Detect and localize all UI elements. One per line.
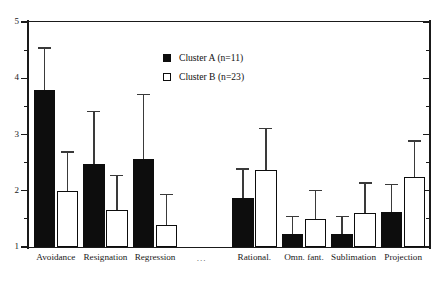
bar-cluster-b-resignation	[106, 210, 128, 247]
bar-cluster-a-avoidance	[34, 90, 56, 248]
y-minor-tick-2.5	[426, 162, 430, 163]
bar-cluster-b-sublimation	[354, 213, 376, 247]
y-tick-5	[21, 21, 28, 22]
y-minor-tick-1.5	[24, 218, 28, 219]
y-minor-tick-3.5	[24, 106, 28, 107]
y-minor-tick-2.5	[24, 162, 28, 163]
y-tick-3	[21, 134, 28, 135]
y-tick-4	[423, 78, 430, 79]
error-bar-cap	[336, 216, 349, 217]
bar-cluster-a-sublimation	[331, 234, 353, 247]
error-bar-line	[116, 175, 117, 210]
y-minor-tick-4.5	[24, 50, 28, 51]
y-axis-label-5: 5	[6, 17, 19, 26]
error-bar-line	[67, 151, 68, 190]
filled-square-icon	[163, 54, 171, 62]
error-bar-cap	[61, 151, 74, 152]
legend-label-cluster-b: Cluster B (n=23)	[179, 71, 244, 82]
bar-cluster-b-avoidance	[57, 191, 79, 247]
bar-cluster-b-regression	[156, 225, 178, 248]
bar-cluster-a-resignation	[83, 164, 105, 247]
error-bar-cap	[38, 47, 51, 48]
error-bar-line	[143, 94, 144, 159]
y-minor-tick-1.5	[426, 218, 430, 219]
error-bar-line	[364, 182, 365, 213]
error-bar-cap	[309, 190, 322, 191]
error-bar-cap	[259, 128, 272, 129]
error-bar-cap	[385, 184, 398, 185]
bar-cluster-b-omn-fant	[305, 219, 327, 247]
error-bar-cap	[87, 111, 100, 112]
x-axis-label-projection: Projection	[358, 252, 441, 263]
bar-chart: 12345 AvoidanceResignationRegression...R…	[0, 0, 441, 282]
y-minor-tick-3.5	[426, 106, 430, 107]
error-bar-cap	[286, 216, 299, 217]
bar-cluster-a-rational	[232, 198, 254, 247]
y-axis-label-4: 4	[6, 73, 19, 82]
error-bar-line	[292, 216, 293, 234]
x-axis-gap-ellipsis: ...	[197, 253, 207, 263]
error-bar-line	[242, 168, 243, 198]
error-bar-line	[93, 111, 94, 164]
error-bar-line	[265, 128, 266, 170]
legend-label-cluster-a: Cluster A (n=11)	[179, 52, 243, 63]
y-tick-2	[21, 190, 28, 191]
error-bar-cap	[359, 182, 372, 183]
error-bar-cap	[110, 175, 123, 176]
error-bar-line	[44, 47, 45, 89]
error-bar-line	[166, 194, 167, 225]
x-axis-label-regression: Regression	[110, 252, 200, 263]
y-axis-label-2: 2	[6, 186, 19, 195]
y-axis-label-3: 3	[6, 130, 19, 139]
legend-item-cluster-b: Cluster B (n=23)	[163, 69, 244, 84]
bar-cluster-b-rational	[255, 170, 277, 247]
y-tick-3	[423, 134, 430, 135]
error-bar-line	[315, 190, 316, 219]
legend-item-cluster-a: Cluster A (n=11)	[163, 50, 244, 65]
error-bar-line	[341, 216, 342, 234]
y-tick-1	[21, 246, 28, 247]
y-tick-5	[423, 21, 430, 22]
bar-cluster-a-omn-fant	[282, 234, 304, 247]
error-bar-cap	[408, 140, 421, 141]
error-bar-line	[391, 184, 392, 212]
bar-cluster-a-projection	[381, 212, 403, 247]
error-bar-cap	[236, 168, 249, 169]
chart-legend: Cluster A (n=11) Cluster B (n=23)	[163, 50, 244, 88]
error-bar-cap	[160, 194, 173, 195]
y-axis-label-1: 1	[6, 242, 19, 251]
error-bar-cap	[137, 94, 150, 95]
y-minor-tick-4.5	[426, 50, 430, 51]
error-bar-line	[414, 140, 415, 177]
open-square-icon	[163, 73, 171, 81]
plot-top-rule	[26, 21, 431, 22]
bar-cluster-b-projection	[404, 177, 426, 247]
y-tick-4	[21, 78, 28, 79]
bar-cluster-a-regression	[133, 159, 155, 247]
